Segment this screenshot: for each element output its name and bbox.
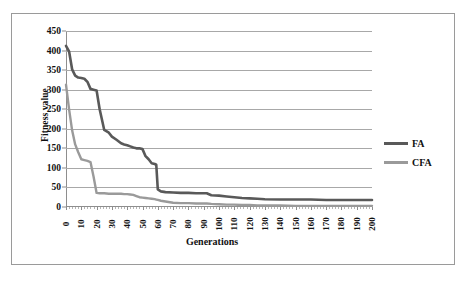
y-tick-label: 150 <box>47 143 61 153</box>
y-tick-label: 50 <box>52 182 62 192</box>
x-tick-label: 70 <box>168 220 178 229</box>
x-minor-tick-mark <box>109 207 110 209</box>
x-tick-mark <box>296 207 297 210</box>
x-minor-tick-mark <box>366 207 367 209</box>
x-tick-label: 10 <box>76 220 86 229</box>
x-minor-tick-mark <box>182 207 183 209</box>
x-minor-tick-mark <box>207 207 208 209</box>
x-tick-label: 110 <box>229 217 239 230</box>
x-tick-mark <box>204 207 205 210</box>
series-lines <box>66 31 372 207</box>
x-minor-tick-mark <box>213 207 214 209</box>
x-minor-tick-mark <box>139 207 140 209</box>
x-minor-tick-mark <box>94 207 95 209</box>
x-tick-mark <box>326 207 327 210</box>
x-tick-mark <box>188 207 189 210</box>
x-tick-mark <box>372 207 373 210</box>
chart-root: Fitness value 45040035030025020015010050… <box>12 14 454 264</box>
x-minor-tick-mark <box>253 207 254 209</box>
x-tick-label: 150 <box>291 217 301 231</box>
x-tick-label: 90 <box>199 220 209 229</box>
x-tick-mark <box>341 207 342 210</box>
x-minor-tick-mark <box>118 207 119 209</box>
x-minor-tick-mark <box>103 207 104 209</box>
x-minor-tick-mark <box>179 207 180 209</box>
x-tick-label: 0 <box>61 222 71 227</box>
x-minor-tick-mark <box>90 207 91 209</box>
x-minor-tick-mark <box>170 207 171 209</box>
x-tick-label: 80 <box>183 220 193 229</box>
x-minor-tick-mark <box>155 207 156 209</box>
y-tick-label: 350 <box>47 65 61 75</box>
x-minor-tick-mark <box>354 207 355 209</box>
x-tick-mark <box>357 207 358 210</box>
x-minor-tick-mark <box>228 207 229 209</box>
x-tick-mark <box>97 207 98 210</box>
x-minor-tick-mark <box>314 207 315 209</box>
x-minor-tick-mark <box>348 207 349 209</box>
legend-swatch-cfa <box>384 161 408 164</box>
x-tick-label: 40 <box>122 220 132 229</box>
y-tick-label: 100 <box>47 163 61 173</box>
x-minor-tick-mark <box>78 207 79 209</box>
legend-swatch-fa <box>384 142 408 145</box>
x-tick-mark <box>311 207 312 210</box>
legend-label-cfa: CFA <box>412 157 432 168</box>
x-minor-tick-mark <box>344 207 345 209</box>
y-tick-label: 450 <box>47 26 61 36</box>
x-minor-tick-mark <box>240 207 241 209</box>
x-tick-label: 20 <box>92 220 102 229</box>
x-minor-tick-mark <box>286 207 287 209</box>
x-minor-tick-mark <box>167 207 168 209</box>
series-line-fa <box>66 46 372 200</box>
x-minor-tick-mark <box>283 207 284 209</box>
x-minor-tick-mark <box>277 207 278 209</box>
x-tick-mark <box>250 207 251 210</box>
x-minor-tick-mark <box>299 207 300 209</box>
legend-item-cfa: CFA <box>384 153 450 172</box>
x-minor-tick-mark <box>201 207 202 209</box>
x-minor-tick-mark <box>149 207 150 209</box>
x-tick-label: 60 <box>153 220 163 229</box>
x-tick-label: 100 <box>214 217 224 231</box>
x-tick-label: 120 <box>245 217 255 231</box>
x-minor-tick-mark <box>338 207 339 209</box>
x-minor-tick-mark <box>75 207 76 209</box>
x-minor-tick-mark <box>320 207 321 209</box>
x-minor-tick-mark <box>369 207 370 209</box>
series-line-cfa <box>66 85 372 206</box>
x-minor-tick-mark <box>176 207 177 209</box>
x-minor-tick-mark <box>237 207 238 209</box>
x-minor-tick-mark <box>274 207 275 209</box>
x-minor-tick-mark <box>152 207 153 209</box>
x-minor-tick-mark <box>247 207 248 209</box>
x-minor-tick-mark <box>329 207 330 209</box>
x-tick-label: 180 <box>336 217 346 231</box>
x-minor-tick-mark <box>289 207 290 209</box>
x-minor-tick-mark <box>225 207 226 209</box>
x-minor-tick-mark <box>84 207 85 209</box>
figure-frame: Fitness value 45040035030025020015010050… <box>11 13 455 265</box>
x-tick-label: 130 <box>260 217 270 231</box>
x-minor-tick-mark <box>323 207 324 209</box>
x-minor-tick-mark <box>268 207 269 209</box>
x-minor-tick-mark <box>271 207 272 209</box>
x-minor-tick-mark <box>195 207 196 209</box>
legend-item-fa: FA <box>384 134 450 153</box>
x-minor-tick-mark <box>164 207 165 209</box>
x-minor-tick-mark <box>335 207 336 209</box>
x-tick-mark <box>265 207 266 210</box>
x-tick-mark <box>234 207 235 210</box>
x-tick-mark <box>127 207 128 210</box>
x-minor-tick-mark <box>136 207 137 209</box>
x-minor-tick-mark <box>72 207 73 209</box>
x-tick-label: 170 <box>321 217 331 231</box>
x-minor-tick-mark <box>130 207 131 209</box>
x-minor-tick-mark <box>191 207 192 209</box>
y-tick-label: 300 <box>47 85 61 95</box>
x-tick-mark <box>219 207 220 210</box>
x-minor-tick-mark <box>87 207 88 209</box>
x-minor-tick-mark <box>256 207 257 209</box>
x-minor-tick-mark <box>69 207 70 209</box>
y-axis-title: Fitness value <box>40 60 50 170</box>
